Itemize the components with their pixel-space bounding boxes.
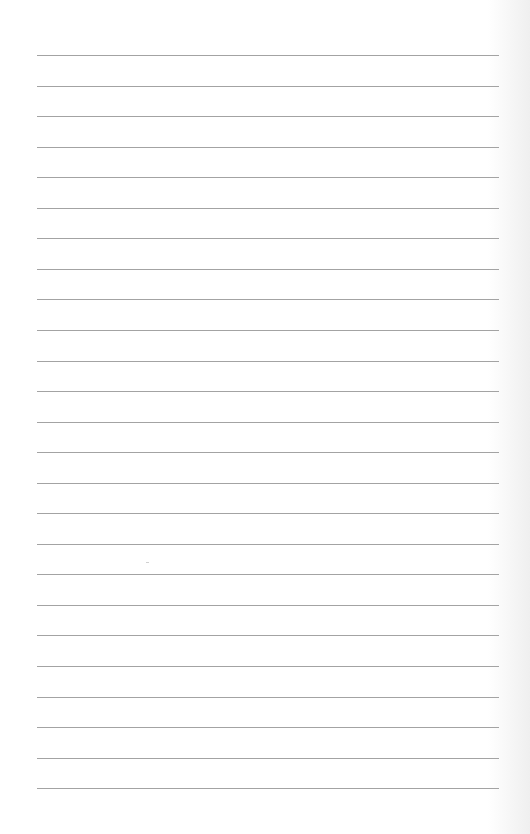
ruled-line xyxy=(37,483,499,484)
ruled-line xyxy=(37,758,499,759)
ruled-line xyxy=(37,697,499,698)
ruled-line xyxy=(37,666,499,667)
ruled-line xyxy=(37,330,499,331)
ruled-line xyxy=(37,605,499,606)
ruled-line xyxy=(37,788,499,789)
ruled-line xyxy=(37,269,499,270)
ruled-line xyxy=(37,147,499,148)
ruled-line xyxy=(37,177,499,178)
ruled-line xyxy=(37,452,499,453)
ruled-line xyxy=(37,208,499,209)
ruled-line xyxy=(37,422,499,423)
ruled-line xyxy=(37,574,499,575)
ruled-line xyxy=(37,635,499,636)
ruled-line xyxy=(37,513,499,514)
ruled-line xyxy=(37,116,499,117)
ruled-line xyxy=(37,86,499,87)
lined-page xyxy=(0,0,530,834)
ruled-line xyxy=(37,727,499,728)
ruled-line xyxy=(37,391,499,392)
paper-speck xyxy=(146,562,149,563)
ruled-line xyxy=(37,544,499,545)
ruled-line xyxy=(37,55,499,56)
ruled-line xyxy=(37,238,499,239)
ruled-line xyxy=(37,299,499,300)
ruled-line xyxy=(37,361,499,362)
